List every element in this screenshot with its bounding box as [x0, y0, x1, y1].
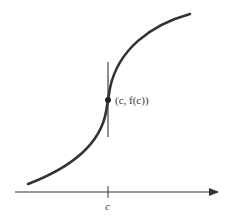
- point-label: (c, f(c)): [115, 94, 149, 107]
- x-tick-label: c: [105, 200, 110, 212]
- point-c-fc: [105, 97, 111, 103]
- diagram-canvas: (c, f(c)) c: [0, 0, 233, 217]
